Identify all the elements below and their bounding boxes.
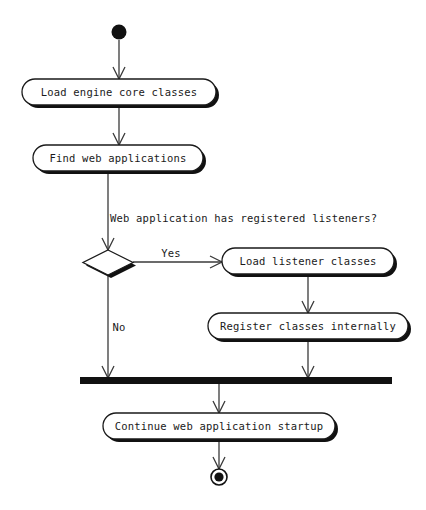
action-node-load-engine-core-classes[interactable]: Load engine core classes	[22, 79, 219, 108]
guard-condition-label: Web application has registered listeners…	[110, 212, 377, 224]
action-node-register-classes-internally[interactable]: Register classes internally	[208, 313, 411, 342]
flow-continue-web-application-startup-to-end	[213, 441, 225, 469]
action-label-continue-web-application-startup: Continue web application startup	[115, 420, 324, 432]
branch-label-no: No	[112, 321, 125, 333]
action-node-find-web-applications[interactable]: Find web applications	[33, 145, 206, 174]
flow-start-to-load-engine-core-classes	[113, 40, 125, 79]
decision-node[interactable]	[83, 250, 136, 278]
action-node-continue-web-application-startup[interactable]: Continue web application startup	[103, 413, 338, 442]
end-node	[211, 469, 227, 485]
action-label-load-listener-classes: Load listener classes	[240, 255, 377, 267]
flow-register-classes-internally-to-join	[302, 341, 314, 378]
action-label-find-web-applications: Find web applications	[50, 152, 187, 164]
flow-find-web-applications-to-decision	[102, 171, 114, 250]
flow-load-listener-classes-to-register-classes-internally	[302, 276, 314, 313]
join-bar	[80, 377, 392, 384]
action-node-load-listener-classes[interactable]: Load listener classes	[222, 248, 397, 277]
branch-label-yes: Yes	[161, 247, 181, 259]
activity-diagram: Load engine core classes Find web applic…	[0, 0, 426, 510]
flow-join-to-continue-web-application-startup	[213, 384, 225, 413]
action-label-load-engine-core-classes: Load engine core classes	[41, 86, 198, 98]
start-node	[112, 25, 127, 40]
activity-diagram-canvas: Load engine core classes Find web applic…	[0, 0, 426, 510]
action-label-register-classes-internally: Register classes internally	[220, 320, 396, 332]
flow-load-engine-core-classes-to-find-web-applications	[113, 106, 125, 145]
